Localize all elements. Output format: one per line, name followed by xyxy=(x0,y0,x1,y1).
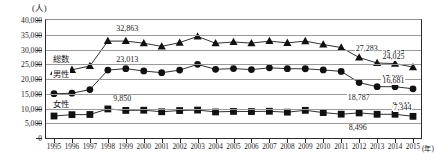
x-tick-label: 1997 xyxy=(83,143,97,151)
x-tick-label: 1999 xyxy=(119,143,133,151)
x-tick-mark xyxy=(108,139,109,143)
x-tick-mark xyxy=(413,139,414,143)
x-tick-label: 2005 xyxy=(226,143,240,151)
y-tick-mark xyxy=(36,50,42,51)
x-tick-label: 2008 xyxy=(280,143,294,151)
x-tick-mark xyxy=(287,139,288,143)
x-tick-label: 2015 xyxy=(406,143,420,151)
y-tick-mark xyxy=(36,20,42,21)
gridline xyxy=(46,109,421,110)
x-tick-label: 2000 xyxy=(137,143,151,151)
data-point-marker xyxy=(320,67,327,74)
data-label-total-1998: 32,863 xyxy=(116,25,139,33)
gridline xyxy=(46,64,421,65)
y-tick-mark xyxy=(36,64,42,65)
x-tick-mark xyxy=(54,139,55,143)
data-point-marker xyxy=(229,38,237,45)
data-point-marker xyxy=(248,66,255,73)
data-point-marker xyxy=(87,111,94,118)
data-point-marker xyxy=(194,32,202,39)
data-label-total-2015: 24,025 xyxy=(382,53,405,61)
data-label-male-2015: 16,681 xyxy=(382,77,405,85)
data-point-marker xyxy=(338,111,345,118)
data-point-marker xyxy=(410,113,417,120)
data-point-marker xyxy=(410,85,417,92)
data-point-marker xyxy=(374,83,381,90)
data-point-marker xyxy=(355,53,363,60)
x-tick-label: 2009 xyxy=(298,143,312,151)
x-tick-label: 2002 xyxy=(172,143,186,151)
legend-label-total: 総数 xyxy=(52,52,70,64)
y-axis: 40,00035,00030,00025,00020,00015,00010,0… xyxy=(0,19,42,139)
x-tick-label: 2007 xyxy=(262,143,276,151)
y-tick-mark xyxy=(36,79,42,80)
data-point-marker xyxy=(69,111,76,118)
y-axis-unit-label: (人) xyxy=(32,1,47,13)
data-point-marker xyxy=(212,109,219,116)
data-point-marker xyxy=(104,67,111,74)
data-point-marker xyxy=(284,109,291,116)
data-point-marker xyxy=(86,62,94,69)
x-tick-label: 1996 xyxy=(65,143,79,151)
x-tick-mark xyxy=(126,139,127,143)
x-tick-label: 1998 xyxy=(101,143,115,151)
data-point-marker xyxy=(320,109,327,116)
x-tick-mark xyxy=(323,139,324,143)
y-tick-mark xyxy=(36,109,42,110)
data-label-total-2012: 27,283 xyxy=(355,45,378,53)
y-tick-mark xyxy=(36,94,42,95)
data-label-male-1998: 23,013 xyxy=(116,56,139,64)
x-tick-label: 2013 xyxy=(370,143,384,151)
data-point-marker xyxy=(302,65,309,72)
chart-container: (人) 40,00035,00030,00025,00020,00015,000… xyxy=(0,0,436,164)
data-point-marker xyxy=(265,37,273,44)
x-tick-mark xyxy=(162,139,163,143)
legend-label-female: 女性 xyxy=(52,97,70,109)
x-tick-mark xyxy=(144,139,145,143)
x-tick-mark xyxy=(305,139,306,143)
x-tick-label: 2006 xyxy=(244,143,258,151)
x-tick-mark xyxy=(90,139,91,143)
x-tick-label: 2011 xyxy=(334,143,348,151)
data-point-marker xyxy=(374,111,381,118)
x-tick-mark xyxy=(72,139,73,143)
x-tick-mark xyxy=(216,139,217,143)
y-tick-mark xyxy=(36,123,42,124)
data-point-marker xyxy=(87,86,94,93)
x-tick-mark xyxy=(269,139,270,143)
x-tick-label: 2004 xyxy=(208,143,222,151)
x-tick-label: 2014 xyxy=(388,143,402,151)
data-label-male-2012: 18,787 xyxy=(347,94,370,102)
data-point-marker xyxy=(158,69,165,76)
data-point-marker xyxy=(356,79,363,86)
data-point-marker xyxy=(266,64,273,71)
data-point-marker xyxy=(104,37,112,44)
y-tick-mark xyxy=(36,138,42,139)
x-tick-label: 2010 xyxy=(316,143,330,151)
gridline xyxy=(46,79,421,80)
x-tick-mark xyxy=(377,139,378,143)
x-tick-mark xyxy=(251,139,252,143)
data-point-marker xyxy=(212,66,219,73)
data-point-marker xyxy=(338,68,345,75)
data-label-female-2015: 7,344 xyxy=(393,104,412,112)
gridline xyxy=(46,35,421,36)
data-point-marker xyxy=(356,110,363,117)
data-point-marker xyxy=(301,37,309,44)
x-tick-mark xyxy=(180,139,181,143)
x-tick-mark xyxy=(234,139,235,143)
x-tick-label: 2001 xyxy=(155,143,169,151)
x-tick-mark xyxy=(341,139,342,143)
x-tick-mark xyxy=(198,139,199,143)
data-label-female-2012: 8,496 xyxy=(348,124,367,132)
data-point-marker xyxy=(284,65,291,72)
legend-label-male: 男性 xyxy=(52,67,70,79)
x-tick-mark xyxy=(395,139,396,143)
data-point-marker xyxy=(122,65,129,72)
data-label-female-1998: 9,850 xyxy=(113,95,132,103)
x-tick-label: 2012 xyxy=(352,143,366,151)
data-point-marker xyxy=(230,65,237,72)
data-point-marker xyxy=(51,113,58,120)
x-tick-label: 2003 xyxy=(190,143,204,151)
plot-area xyxy=(45,19,422,139)
